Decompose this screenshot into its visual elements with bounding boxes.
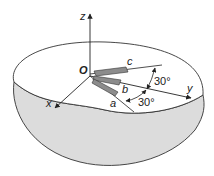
a-label: a bbox=[110, 97, 116, 109]
angle-label-upper: 30° bbox=[154, 75, 171, 87]
b-label: b bbox=[122, 83, 128, 95]
c-label: c bbox=[127, 55, 133, 67]
origin-label: O bbox=[79, 64, 88, 76]
z-axis-label: z bbox=[79, 10, 86, 22]
angle-label-lower: 30° bbox=[138, 96, 155, 108]
x-axis-label: x bbox=[45, 97, 52, 109]
strain-rosette-diagram: z x y O c b a 30° 30° bbox=[0, 0, 214, 176]
